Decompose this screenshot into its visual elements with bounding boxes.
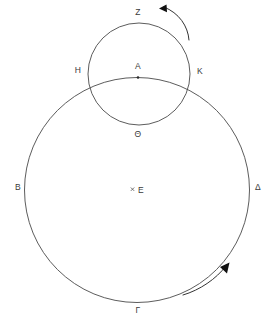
point-a-marker: [137, 76, 140, 79]
vertex-label-a: A: [135, 62, 141, 71]
point-e-marker: [131, 188, 134, 191]
vertex-label-theta: Θ: [135, 130, 142, 139]
geometric-diagram: Z A H K Θ B E Δ Γ: [0, 0, 275, 325]
vertex-label-delta: Δ: [255, 183, 261, 192]
vertex-label-h: H: [75, 66, 81, 75]
vertex-label-b: B: [15, 183, 21, 192]
vertex-label-z: Z: [135, 8, 140, 17]
small-circle-rotation-arrow: [159, 5, 189, 41]
large-circle: [25, 78, 250, 303]
vertex-label-gamma: Γ: [136, 306, 141, 315]
vertex-label-k: K: [197, 67, 203, 76]
vertex-label-e: E: [138, 186, 144, 195]
diagram-canvas: [0, 0, 275, 325]
small-circle: [88, 23, 190, 125]
